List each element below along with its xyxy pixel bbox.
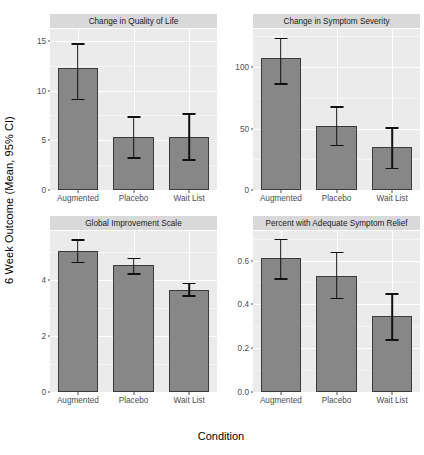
figure-canvas: 6 Week Outcome (Mean, 95% CI) Change in … [0, 0, 424, 455]
facet-panel-symptom-severity: Change in Symptom Severity 050100Augment… [221, 8, 424, 210]
facet-panel-adequate-symptom-relief: Percent with Adequate Symptom Relief 0.0… [221, 210, 424, 412]
y-tick-mark [251, 260, 254, 261]
error-bar-line [77, 239, 79, 261]
plot-area-wrapper: 050100AugmentedPlaceboWait List [253, 29, 420, 190]
x-tick-mark [392, 392, 393, 395]
bar [113, 265, 153, 392]
error-bar-line [188, 113, 190, 159]
error-bar-cap-lower [183, 295, 196, 297]
error-bar-cap-lower [183, 159, 196, 161]
x-tick-mark [392, 190, 393, 193]
error-bar-cap-upper [274, 38, 287, 40]
error-bar-cap-lower [274, 278, 287, 280]
error-bar-cap-lower [386, 168, 399, 170]
plot-area [253, 231, 420, 392]
error-bar-cap-lower [274, 83, 287, 85]
error-bar-line [133, 116, 135, 157]
y-tick-mark [48, 280, 51, 281]
facet-strip-title: Global Improvement Scale [50, 216, 217, 230]
y-tick-mark [48, 190, 51, 191]
x-tick-mark [336, 190, 337, 193]
x-tick-mark [189, 190, 190, 193]
error-bar-cap-lower [127, 273, 140, 275]
error-bar-cap-upper [183, 113, 196, 115]
plot-area-wrapper: 051015AugmentedPlaceboWait List [50, 29, 217, 190]
facet-strip-title: Percent with Adequate Symptom Relief [253, 216, 420, 230]
error-bar-cap-upper [330, 252, 343, 254]
error-bar-cap-upper [386, 127, 399, 129]
x-axis-label: Condition [18, 430, 424, 442]
y-tick-mark [48, 90, 51, 91]
error-bar-cap-upper [330, 106, 343, 108]
y-tick-mark [48, 336, 51, 337]
error-bar-cap-lower [71, 99, 84, 101]
error-bar-line [336, 106, 338, 144]
error-bar-cap-upper [71, 43, 84, 45]
plot-area [253, 29, 420, 190]
facet-grid: Change in Quality of Life 051015Augmente… [18, 8, 424, 422]
y-tick-mark [251, 128, 254, 129]
y-tick-mark [251, 67, 254, 68]
bar [169, 290, 209, 392]
error-bar-line [336, 252, 338, 298]
plot-area-wrapper: 024AugmentedPlaceboWait List [50, 231, 217, 392]
facet-panel-global-improvement-scale: Global Improvement Scale 024AugmentedPla… [18, 210, 221, 412]
error-bar-cap-lower [330, 298, 343, 300]
error-bar-line [280, 38, 282, 83]
error-bar-cap-upper [183, 283, 196, 285]
y-tick-mark [48, 140, 51, 141]
x-tick-mark [77, 190, 78, 193]
x-tick-mark [336, 392, 337, 395]
plot-area-wrapper: 0.00.20.40.6AugmentedPlaceboWait List [253, 231, 420, 392]
error-bar-line [391, 293, 393, 339]
error-bar-cap-lower [330, 145, 343, 147]
x-tick-mark [280, 392, 281, 395]
error-bar-line [77, 43, 79, 99]
y-tick-mark [48, 392, 51, 393]
y-axis-label-text: 6 Week Outcome (Mean, 95% CI) [3, 116, 15, 284]
y-tick-mark [251, 392, 254, 393]
facet-strip-title: Change in Symptom Severity [253, 14, 420, 28]
y-tick-mark [251, 304, 254, 305]
error-bar-line [280, 239, 282, 278]
x-tick-mark [133, 190, 134, 193]
error-bar-cap-upper [274, 239, 287, 241]
facet-panel-quality-of-life: Change in Quality of Life 051015Augmente… [18, 8, 221, 210]
error-bar-cap-upper [71, 239, 84, 241]
y-axis-label: 6 Week Outcome (Mean, 95% CI) [0, 0, 18, 400]
error-bar-cap-lower [386, 339, 399, 341]
x-tick-mark [77, 392, 78, 395]
plot-area [50, 231, 217, 392]
error-bar-cap-upper [386, 293, 399, 295]
error-bar-cap-upper [127, 116, 140, 118]
x-tick-mark [189, 392, 190, 395]
error-bar-line [133, 258, 135, 273]
x-tick-mark [133, 392, 134, 395]
x-tick-mark [280, 190, 281, 193]
y-tick-mark [251, 348, 254, 349]
error-bar-cap-lower [71, 262, 84, 264]
plot-area [50, 29, 217, 190]
y-tick-mark [251, 190, 254, 191]
bar [58, 251, 98, 392]
y-tick-mark [48, 40, 51, 41]
error-bar-line [188, 283, 190, 296]
error-bar-cap-upper [127, 258, 140, 260]
facet-strip-title: Change in Quality of Life [50, 14, 217, 28]
error-bar-line [391, 127, 393, 168]
error-bar-cap-lower [127, 157, 140, 159]
